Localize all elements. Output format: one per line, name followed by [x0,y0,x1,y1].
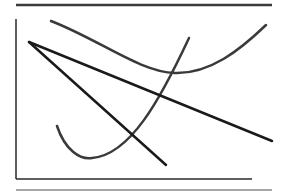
line-b [29,42,166,165]
diagram-svg [0,0,287,194]
diagram-canvas [0,0,287,194]
line-a [29,42,272,141]
